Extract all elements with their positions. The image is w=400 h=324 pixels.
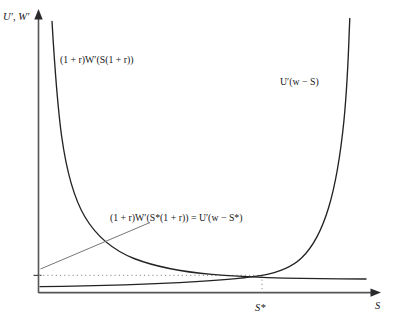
- curve-label-marginal-utility: U′(w − S): [280, 76, 319, 88]
- axes-group: [34, 9, 382, 297]
- y-axis-arrow-icon: [34, 9, 42, 20]
- curve-label-marginal-wealth: (1 + r)W′(S(1 + r)): [60, 54, 134, 66]
- x-axis-label: S: [375, 300, 381, 311]
- x-axis-arrow-icon: [371, 288, 382, 296]
- equilibrium-leader-line: [41, 223, 151, 270]
- y-axis-label: U′, W′: [3, 11, 30, 22]
- economics-diagram: U′, W′ S S* (1 + r)W′(S(1 + r)) U′(w − S…: [0, 0, 400, 324]
- equilibrium-condition-label: (1 + r)W′(S*(1 + r)) = U′(w − S*): [110, 212, 243, 224]
- x-axis-tick-label-sstar: S*: [255, 302, 266, 313]
